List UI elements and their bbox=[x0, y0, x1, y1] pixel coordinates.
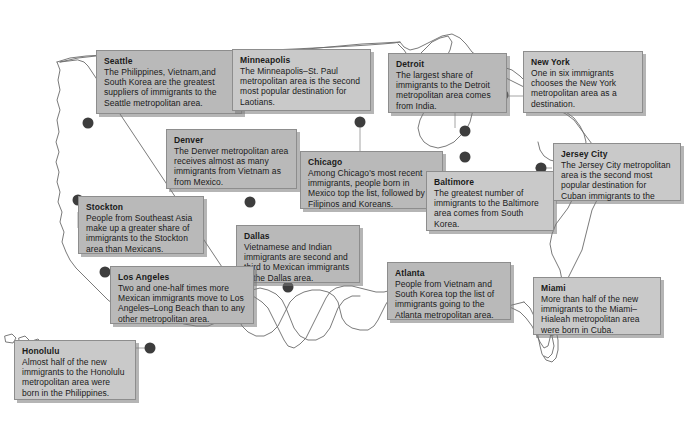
callout-text-minneapolis: The Minneapolis–St. Paul metropolitan ar… bbox=[240, 66, 363, 107]
callout-chicago[interactable]: Chicago Among Chicago's most recent immi… bbox=[300, 151, 443, 209]
callout-city-minneapolis: Minneapolis bbox=[240, 55, 363, 65]
baltimore-dot[interactable] bbox=[460, 152, 471, 163]
callout-text-miami: More than half of the new immigrants to … bbox=[541, 294, 653, 335]
callout-newyork[interactable]: New York One in six immigrants chooses t… bbox=[523, 51, 643, 113]
callout-city-miami: Miami bbox=[541, 283, 653, 293]
callout-text-jerseycity: The Jersey City metropolitan area is the… bbox=[561, 160, 673, 201]
callout-text-honolulu: Almost half of the new immigrants to the… bbox=[22, 357, 128, 398]
callout-city-denver: Denver bbox=[174, 135, 289, 145]
denver-dot[interactable] bbox=[245, 197, 256, 208]
callout-jerseycity[interactable]: Jersey City The Jersey City metropolitan… bbox=[553, 143, 681, 201]
callout-city-newyork: New York bbox=[531, 57, 635, 67]
callout-detroit[interactable]: Detroit The largest share of immigrants … bbox=[388, 53, 507, 113]
callout-text-stockton: People from Southeast Asia make up a gre… bbox=[86, 213, 196, 254]
callout-seattle[interactable]: Seattle The Philippines, Vietnam,and Sou… bbox=[96, 50, 242, 114]
callout-text-dallas: Vietnamese and Indian immigrants are sec… bbox=[244, 242, 352, 283]
callout-city-atlanta: Atlanta bbox=[395, 268, 503, 278]
callout-city-stockton: Stockton bbox=[86, 202, 196, 212]
callout-city-detroit: Detroit bbox=[396, 59, 499, 69]
callout-atlanta[interactable]: Atlanta People from Vietnam and South Ko… bbox=[387, 262, 511, 320]
immigration-map: Seattle The Philippines, Vietnam,and Sou… bbox=[0, 0, 685, 425]
callout-text-newyork: One in six immigrants chooses the New Yo… bbox=[531, 68, 635, 109]
callout-text-losangeles: Two and one-half times more Mexican immi… bbox=[118, 283, 246, 324]
callout-denver[interactable]: Denver The Denver metropolitan area rece… bbox=[166, 129, 297, 189]
callout-text-chicago: Among Chicago's most recent immigrants, … bbox=[308, 168, 435, 209]
callout-city-losangeles: Los Angeles bbox=[118, 272, 246, 282]
callout-text-detroit: The largest share of immigrants to the D… bbox=[396, 70, 499, 111]
callout-dallas[interactable]: Dallas Vietnamese and Indian immigrants … bbox=[236, 225, 360, 283]
callout-text-denver: The Denver metropolitan area receives al… bbox=[174, 146, 289, 187]
callout-text-baltimore: The greatest number of immigrants to the… bbox=[434, 188, 546, 229]
callout-text-atlanta: People from Vietnam and South Korea top … bbox=[395, 279, 503, 320]
callout-city-seattle: Seattle bbox=[104, 56, 234, 66]
callout-text-seattle: The Philippines, Vietnam,and South Korea… bbox=[104, 67, 234, 108]
callout-city-jerseycity: Jersey City bbox=[561, 149, 673, 159]
callout-city-baltimore: Baltimore bbox=[434, 177, 546, 187]
callout-baltimore[interactable]: Baltimore The greatest number of immigra… bbox=[426, 171, 554, 231]
dallas-dot[interactable] bbox=[283, 282, 294, 293]
losangeles-dot[interactable] bbox=[100, 267, 111, 278]
callout-honolulu[interactable]: Honolulu Almost half of the new immigran… bbox=[14, 340, 136, 400]
detroit-dot[interactable] bbox=[460, 126, 471, 137]
callout-stockton[interactable]: Stockton People from Southeast Asia make… bbox=[78, 196, 204, 254]
callout-losangeles[interactable]: Los Angeles Two and one-half times more … bbox=[110, 266, 254, 324]
callout-city-dallas: Dallas bbox=[244, 231, 352, 241]
callout-miami[interactable]: Miami More than half of the new immigran… bbox=[533, 277, 661, 335]
honolulu-dot[interactable] bbox=[145, 343, 156, 354]
callout-minneapolis[interactable]: Minneapolis The Minneapolis–St. Paul met… bbox=[232, 49, 371, 111]
callout-city-honolulu: Honolulu bbox=[22, 346, 128, 356]
chicago-dot[interactable] bbox=[355, 117, 366, 128]
callout-city-chicago: Chicago bbox=[308, 157, 435, 167]
seattle-dot[interactable] bbox=[83, 118, 94, 129]
